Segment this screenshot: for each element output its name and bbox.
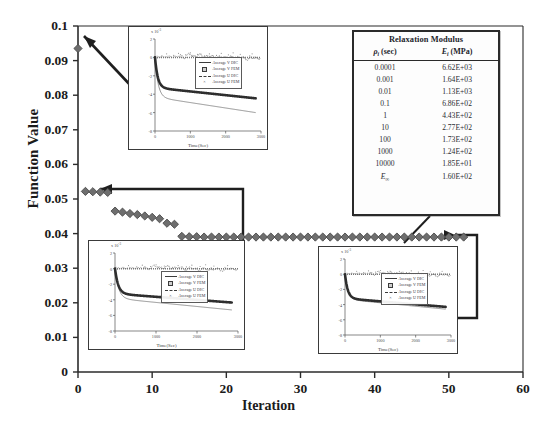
inset-scatter-point xyxy=(233,52,234,53)
table-cell-e: 4.43E+02 xyxy=(416,109,498,121)
data-point-marker xyxy=(74,44,82,52)
table-cell-rho: 1 xyxy=(354,109,416,121)
x-tick-label: 50 xyxy=(429,381,469,397)
table-row: 0.16.86E+02 xyxy=(354,97,498,109)
inset-legend-label: Average V DIC xyxy=(211,60,238,67)
table-row-einf: E∞ 1.60E+02 xyxy=(354,170,498,184)
x-tick-label: 20 xyxy=(206,381,246,397)
table-cell-rho: 10 xyxy=(354,121,416,133)
inset-exponent-power: -3 xyxy=(158,28,161,32)
table-cell-rho: 0.1 xyxy=(354,97,416,109)
table-row: 0.0011.64E+03 xyxy=(354,73,498,85)
table-cell-e: 1.13E+03 xyxy=(416,85,498,97)
inset-scatter-point xyxy=(252,53,253,54)
inset-scatter-point xyxy=(191,265,192,266)
inset-scatter-point xyxy=(244,57,245,58)
inset-scatter-point xyxy=(158,267,159,268)
inset-scatter-point xyxy=(224,267,225,268)
inset-scatter-point xyxy=(180,56,181,57)
inset-scatter-point xyxy=(423,270,424,271)
inset-scatter-point xyxy=(197,268,198,269)
x-tick-marks xyxy=(78,372,523,378)
table-cell-e: 1.24E+02 xyxy=(416,146,498,158)
inset-scatter-point xyxy=(166,53,167,54)
cross-marker-icon: × xyxy=(203,80,205,84)
inset-scatter-point xyxy=(219,268,220,269)
inset-scatter-point xyxy=(190,52,191,53)
inset-scatter-point xyxy=(213,265,214,266)
table-cell-rho: 100 xyxy=(354,134,416,146)
inset-legend-item: Average V DIC xyxy=(198,60,239,67)
inset-scatter-point xyxy=(178,265,179,266)
data-point-marker xyxy=(81,187,89,195)
y-tick-label: 0.03 xyxy=(12,260,68,276)
data-point-marker xyxy=(126,209,134,217)
inset-scatter-point xyxy=(216,55,217,56)
inset-scatter-point xyxy=(256,57,257,58)
inset-scatter-point xyxy=(200,266,201,267)
legend-key-square-marker xyxy=(164,281,177,286)
table-row: 0.00016.62E+03 xyxy=(354,61,498,74)
legend-key-cross-marker: × xyxy=(384,296,397,300)
legend-key-cross-marker: × xyxy=(198,80,211,84)
inset-scatter-point xyxy=(197,54,198,55)
table-row: 1001.73E+02 xyxy=(354,134,498,146)
legend-key-square-marker xyxy=(384,283,397,288)
table-title-row: Relaxation Modulus xyxy=(354,32,498,46)
x-tick-label: 10 xyxy=(132,381,172,397)
inset-scatter-point xyxy=(347,274,348,275)
table-row: 0.011.13E+03 xyxy=(354,85,498,97)
x-tick-label: 30 xyxy=(281,381,321,397)
table-title: Relaxation Modulus xyxy=(354,32,498,46)
inset-legend-item: ×Average U FEM xyxy=(198,79,239,86)
inset-scatter-point xyxy=(228,54,229,55)
y-axis-title: Function Value xyxy=(25,64,42,254)
table-cell-e: 1.64E+03 xyxy=(416,73,498,85)
data-point-marker xyxy=(118,208,126,216)
solid-line-icon xyxy=(199,62,211,63)
inset-scatter-point xyxy=(227,265,228,266)
inset-scatter-point xyxy=(351,272,352,273)
legend-key-dashed-line xyxy=(384,292,397,293)
inset-scatter-point xyxy=(380,270,381,271)
legend-key-square-marker xyxy=(198,67,211,72)
inset-scatter-point xyxy=(375,272,376,273)
inset-legend-label: Average U FEM xyxy=(177,293,205,300)
data-point-marker xyxy=(148,213,156,221)
inset-scatter-point xyxy=(211,267,212,268)
inset-scatter-point xyxy=(358,274,359,275)
inset-scatter-point xyxy=(157,57,158,58)
table-cell-rho-einf: E∞ xyxy=(354,170,416,184)
table-cell-e: 2.77E+02 xyxy=(416,121,498,133)
inset-scatter-point xyxy=(240,54,241,55)
data-point-marker xyxy=(141,212,149,220)
inset-legend: Average V DICAverage V FEMAverage U DIC×… xyxy=(381,273,428,305)
x-tick-label: 0 xyxy=(58,381,98,397)
inset-scatter-point xyxy=(131,268,132,269)
inset-legend-label: Average U DIC xyxy=(397,289,424,296)
inset-scatter-point xyxy=(209,53,210,54)
x-axis-title: Iteration xyxy=(0,398,537,414)
y-tick-label: 0.02 xyxy=(12,295,68,311)
solid-line-icon xyxy=(165,276,177,277)
inset-scatter-point xyxy=(136,266,137,267)
inset-scatter-point xyxy=(370,273,371,274)
inset-legend-item: Average V DIC xyxy=(384,276,425,283)
square-marker-icon xyxy=(202,67,207,72)
inset-legend: Average V DICAverage V FEMAverage U DIC×… xyxy=(195,57,242,89)
inset-bottom-right-iteration-52: 20-2-4-6-80100020003000x 10-3Displacemen… xyxy=(318,246,458,354)
x-tick-label: 60 xyxy=(503,381,537,397)
inset-x-axis-title: Time(Sec) xyxy=(89,343,244,348)
data-point-marker xyxy=(155,215,163,223)
inset-bottom-left-iteration-10: 20-2-4-6-80100020003000x 10-3Displacemen… xyxy=(88,240,245,350)
data-point-marker xyxy=(163,219,171,227)
inset-scatter-point xyxy=(192,56,193,57)
inset-scatter-point xyxy=(363,272,364,273)
inset-top-iteration-0: 20-2-4-6-80100020003000x 10-3Displacemen… xyxy=(128,26,268,150)
y-tick-label: 0.01 xyxy=(12,329,68,345)
cross-marker-icon: × xyxy=(389,296,391,300)
table-cell-e: 1.85E+01 xyxy=(416,158,498,171)
table-row: 102.77E+02 xyxy=(354,121,498,133)
table-header-row: ρi (sec) Ei (MPa) xyxy=(354,46,498,61)
inset-scatter-point xyxy=(169,268,170,269)
